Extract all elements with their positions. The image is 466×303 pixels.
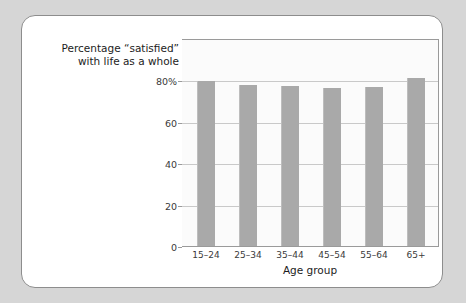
bar-35-44 bbox=[281, 86, 299, 248]
chart-title: Percentage “satisfied” with life as a wh… bbox=[34, 42, 179, 68]
bar-45-54 bbox=[323, 88, 341, 247]
chart-title-line-1: Percentage “satisfied” bbox=[34, 42, 179, 55]
ytick-label-40: 40 bbox=[165, 159, 177, 170]
chart-title-line-2: with life as a whole bbox=[34, 55, 179, 68]
xtick-label-15-24: 15–24 bbox=[192, 250, 219, 260]
xtick-label-55-64: 55–64 bbox=[360, 250, 387, 260]
ytick-mark-60 bbox=[178, 123, 182, 124]
figure-background: Percentage “satisfied” with life as a wh… bbox=[0, 0, 466, 303]
gridline-20 bbox=[182, 206, 438, 207]
plot-area: 80% 60 40 20 0 bbox=[182, 39, 439, 247]
ytick-label-0: 0 bbox=[171, 242, 177, 253]
bar-25-34 bbox=[239, 85, 257, 248]
xtick-label-65-plus: 65+ bbox=[407, 250, 426, 260]
ytick-label-80: 80% bbox=[156, 76, 177, 87]
gridline-80 bbox=[182, 81, 438, 82]
x-axis-label: Age group bbox=[182, 264, 438, 276]
xtick-label-25-34: 25–34 bbox=[234, 250, 261, 260]
ytick-label-60: 60 bbox=[165, 117, 177, 128]
chart-card: Percentage “satisfied” with life as a wh… bbox=[21, 15, 443, 288]
ytick-mark-20 bbox=[178, 206, 182, 207]
ytick-mark-80 bbox=[178, 81, 182, 82]
ytick-mark-40 bbox=[178, 164, 182, 165]
xtick-label-45-54: 45–54 bbox=[318, 250, 345, 260]
bar-15-24 bbox=[197, 81, 215, 247]
gridline-60 bbox=[182, 123, 438, 124]
bar-65-plus bbox=[407, 78, 425, 247]
xtick-label-35-44: 35–44 bbox=[276, 250, 303, 260]
gridline-40 bbox=[182, 164, 438, 165]
ytick-mark-0 bbox=[178, 247, 182, 248]
ytick-label-20: 20 bbox=[165, 200, 177, 211]
bar-55-64 bbox=[365, 87, 383, 247]
x-axis-line bbox=[182, 246, 439, 247]
